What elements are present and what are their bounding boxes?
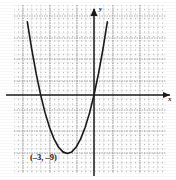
y-axis-label: y bbox=[99, 5, 102, 13]
coordinate-plane bbox=[0, 0, 176, 180]
graph-figure: (–3, –9) y x bbox=[0, 0, 176, 180]
vertex-label: (–3, –9) bbox=[30, 153, 57, 162]
x-axis-label: x bbox=[168, 95, 172, 103]
plot-background bbox=[14, 5, 166, 173]
